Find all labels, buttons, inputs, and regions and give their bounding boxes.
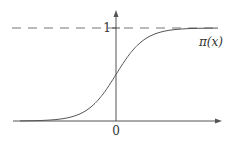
x-axis-arrow-icon — [215, 119, 222, 124]
sigmoid-curve — [20, 28, 218, 121]
y-axis-arrow-icon — [114, 10, 119, 17]
x-tick-label-zero: 0 — [112, 124, 120, 138]
curve-label: π(x) — [198, 35, 223, 49]
sigmoid-plot: 1 0 π(x) — [0, 0, 235, 143]
y-tick-label-one: 1 — [103, 21, 111, 35]
